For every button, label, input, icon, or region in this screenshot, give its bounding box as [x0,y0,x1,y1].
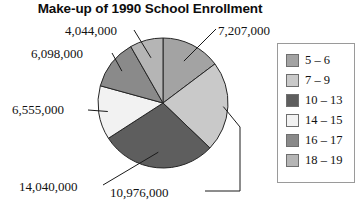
value-label-5-6: 7,207,000 [218,24,270,37]
legend-swatch [286,94,299,107]
legend-label: 16 – 17 [305,133,343,148]
legend-swatch [286,114,299,127]
legend-item: 16 – 17 [286,133,343,149]
legend-label: 5 – 6 [305,53,330,68]
legend-swatch [286,74,299,87]
legend-swatch [286,154,299,167]
value-label-16-17: 6,098,000 [31,47,83,60]
legend: 5 – 67 – 910 – 1314 – 1516 – 1718 – 19 [277,43,355,183]
value-label-14-15: 6,555,000 [12,103,64,116]
legend-item: 18 – 19 [286,153,343,169]
legend-swatch [286,134,299,147]
value-label-18-19: 4,044,000 [65,24,117,37]
legend-item: 14 – 15 [286,113,343,129]
legend-item: 7 – 9 [286,72,343,88]
pie-slices [98,38,228,168]
value-label-10-13: 14,040,000 [19,180,78,193]
pie-chart-figure: Make-up of 1990 School Enrollment 4,044,… [0,0,358,203]
legend-label: 10 – 13 [305,93,343,108]
legend-label: 7 – 9 [305,73,330,88]
legend-swatch [286,54,299,67]
legend-item: 10 – 13 [286,92,343,108]
legend-item: 5 – 6 [286,52,343,68]
legend-label: 14 – 15 [305,113,343,128]
value-label-7-9: 10,976,000 [110,186,169,199]
legend-label: 18 – 19 [305,153,343,168]
